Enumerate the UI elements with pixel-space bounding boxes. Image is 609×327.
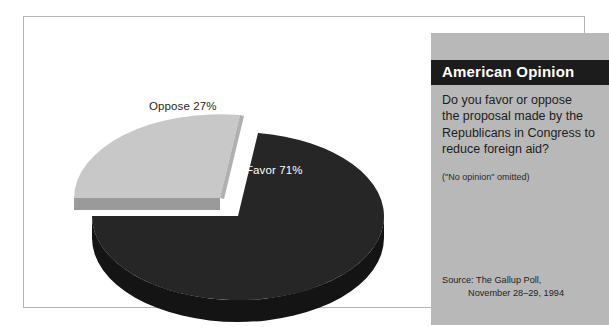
american-opinion-panel: American Opinion Do you favor or oppose … (431, 33, 609, 325)
pie-label-oppose: Oppose 27% (149, 100, 217, 112)
pie-label-favor: Favor 71% (246, 164, 303, 176)
source-citation: Source: The Gallup Poll, November 28–29,… (442, 274, 564, 299)
poll-question-line-2: the proposal made by the (442, 108, 602, 124)
pie-slice-oppose-side (74, 198, 220, 210)
source-line-1: Source: The Gallup Poll, (442, 274, 564, 287)
panel-title-bar: American Opinion (431, 60, 609, 85)
pie-chart: Oppose 27% Favor 71% (48, 34, 430, 324)
pie-stage: Oppose 27% Favor 71% (48, 34, 430, 324)
figure-frame: Oppose 27% Favor 71% American Opinion Do… (23, 16, 585, 308)
panel-title: American Opinion (442, 63, 574, 80)
pie-chart-svg (48, 34, 430, 324)
no-opinion-omitted-note: ("No opinion" omitted) (442, 172, 529, 182)
pie-slice-oppose-top (74, 114, 240, 198)
poll-question: Do you favor or oppose the proposal made… (442, 92, 602, 157)
poll-question-line-4: reduce foreign aid? (442, 141, 602, 157)
source-line-2: November 28–29, 1994 (442, 287, 564, 300)
poll-question-line-1: Do you favor or oppose (442, 92, 602, 108)
poll-question-line-3: Republicans in Congress to (442, 125, 602, 141)
